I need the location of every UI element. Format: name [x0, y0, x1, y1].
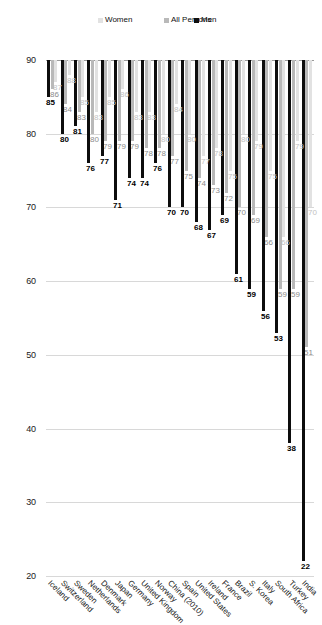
bar-all[interactable]: [238, 60, 241, 207]
bar-men[interactable]: [181, 60, 184, 207]
bar-women[interactable]: [296, 60, 299, 141]
bar-value-label: 80: [60, 136, 69, 144]
bar-all[interactable]: [118, 60, 121, 141]
bar-men[interactable]: [87, 60, 90, 163]
bar-value-label: 84: [63, 106, 72, 114]
bar-value-label: 66: [281, 239, 290, 247]
bar-women[interactable]: [202, 60, 205, 156]
legend-swatch-icon: [164, 18, 169, 23]
bar-all[interactable]: [78, 60, 81, 112]
bar-value-label: 68: [194, 224, 203, 232]
axis-tick-label: 80: [20, 129, 42, 139]
legend-item[interactable]: All Persons: [164, 16, 211, 24]
bar-men[interactable]: [262, 60, 265, 311]
bar-all[interactable]: [305, 60, 308, 347]
axis-tick-label: 60: [20, 276, 42, 286]
bar-row: 705122: [301, 60, 314, 576]
bar-men[interactable]: [288, 60, 291, 443]
bar-all[interactable]: [145, 60, 148, 148]
bar-value-label: 70: [180, 209, 189, 217]
bar-value-label: 78: [157, 150, 166, 158]
bar-women[interactable]: [255, 60, 258, 141]
bar-all[interactable]: [51, 60, 54, 89]
bar-women[interactable]: [282, 60, 285, 237]
bar-row: 665953: [274, 60, 287, 576]
bar-women[interactable]: [95, 60, 98, 112]
bar-women[interactable]: [229, 60, 232, 171]
bar-row: 807570: [180, 60, 193, 576]
bar-women[interactable]: [188, 60, 191, 134]
bar-all[interactable]: [104, 60, 107, 141]
bar-men[interactable]: [235, 60, 238, 274]
bar-row: 787367: [207, 60, 220, 576]
bar-women[interactable]: [68, 60, 71, 75]
bar-women[interactable]: [162, 60, 165, 134]
axis-tick-label: 40: [20, 424, 42, 434]
bar-men[interactable]: [248, 60, 251, 289]
bar-value-label: 83: [147, 114, 156, 122]
bar-value-label: 59: [291, 291, 300, 299]
bar-all[interactable]: [185, 60, 188, 171]
bar-value-label: 76: [153, 165, 162, 173]
bar-women[interactable]: [148, 60, 151, 112]
axis-tick-label: 70: [20, 202, 42, 212]
bar-all[interactable]: [292, 60, 295, 289]
bar-all[interactable]: [212, 60, 215, 185]
legend-item[interactable]: Women: [98, 16, 132, 24]
bar-value-label: 69: [251, 217, 260, 225]
bar-all[interactable]: [225, 60, 228, 193]
bar-all[interactable]: [198, 60, 201, 178]
bar-all[interactable]: [64, 60, 67, 104]
bar-women[interactable]: [269, 60, 272, 171]
bar-value-label: 81: [73, 128, 82, 136]
bar-men[interactable]: [208, 60, 211, 230]
bar-value-label: 88: [67, 77, 76, 85]
bar-men[interactable]: [275, 60, 278, 333]
bar-value-label: 79: [295, 143, 304, 151]
bar-men[interactable]: [114, 60, 117, 200]
bar-value-label: 78: [214, 150, 223, 158]
bar-men[interactable]: [302, 60, 305, 561]
bar-value-label: 85: [46, 99, 55, 107]
bar-women[interactable]: [81, 60, 84, 97]
bar-value-label: 79: [117, 143, 126, 151]
bar-women[interactable]: [54, 60, 57, 82]
bar-women[interactable]: [135, 60, 138, 112]
bar-value-label: 85: [80, 99, 89, 107]
bar-row: 838076: [86, 60, 99, 576]
bar-all[interactable]: [171, 60, 174, 156]
bar-men[interactable]: [221, 60, 224, 215]
bar-all[interactable]: [252, 60, 255, 215]
bar-all[interactable]: [158, 60, 161, 148]
bar-all[interactable]: [131, 60, 134, 141]
bar-value-label: 83: [94, 114, 103, 122]
bar-all[interactable]: [265, 60, 268, 237]
bar-women[interactable]: [309, 60, 312, 207]
bar-women[interactable]: [175, 60, 178, 104]
bar-value-label: 79: [130, 143, 139, 151]
bar-men[interactable]: [61, 60, 64, 134]
bar-women[interactable]: [242, 60, 245, 134]
bar-men[interactable]: [168, 60, 171, 207]
bar-value-label: 70: [167, 209, 176, 217]
bar-men[interactable]: [128, 60, 131, 178]
bar-value-label: 80: [241, 136, 250, 144]
bar-men[interactable]: [47, 60, 50, 97]
bar-men[interactable]: [101, 60, 104, 156]
bar-value-label: 86: [120, 91, 129, 99]
bar-men[interactable]: [74, 60, 77, 126]
bar-value-label: 61: [234, 276, 243, 284]
bar-all[interactable]: [279, 60, 282, 289]
bar-value-label: 80: [161, 136, 170, 144]
bar-all[interactable]: [91, 60, 94, 134]
bar-value-label: 79: [103, 143, 112, 151]
bar-women[interactable]: [215, 60, 218, 148]
legend-label: Women: [105, 16, 132, 24]
legend-label: All Persons: [171, 16, 211, 24]
bar-value-label: 75: [228, 173, 237, 181]
bar-women[interactable]: [121, 60, 124, 89]
bar-women[interactable]: [108, 60, 111, 97]
bar-row: 878685: [46, 60, 59, 576]
bar-men[interactable]: [154, 60, 157, 163]
